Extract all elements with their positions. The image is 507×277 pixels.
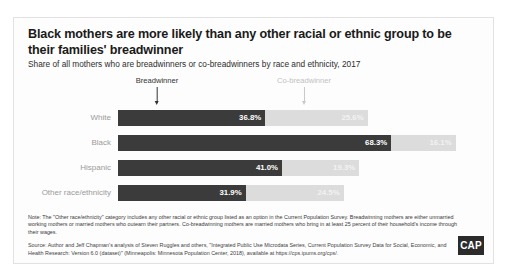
chart-title: Black mothers are more likely than any o… [28,27,468,58]
chart-plot-area: White36.8%25.6%Black68.3%16.1%Hispanic41… [14,110,494,210]
chart-row-bars: 68.3%16.1% [118,135,456,151]
bar-segment-cobreadwinner: 19.3% [282,160,359,176]
bar-value-label: 31.9% [219,185,241,201]
chart-row-label: Hispanic [14,160,111,176]
legend-cobreadwinner-arrow-icon [302,101,306,105]
bar-segment-cobreadwinner: 24.5% [246,185,344,201]
legend-breadwinner-label: Breadwinner [136,76,179,85]
chart-row: White36.8%25.6% [14,110,494,126]
chart-row-label: Black [14,135,111,151]
chart-row: Other race/ethnicity31.9%24.5% [14,185,494,201]
chart-row: Hispanic41.0%19.3% [14,160,494,176]
legend-cobreadwinner-label: Co-breadwinner [277,76,331,85]
legend-breadwinner-arrow-icon [154,101,158,105]
bar-value-label: 25.6% [341,110,363,126]
chart-row-bars: 31.9%24.5% [118,185,344,201]
chart-row-bars: 41.0%19.3% [118,160,359,176]
chart-row-label: White [14,110,111,126]
chart-row: Black68.3%16.1% [14,135,494,151]
bar-segment-breadwinner: 68.3% [118,135,391,151]
bar-value-label: 16.1% [429,135,451,151]
chart-subtitle: Share of all mothers who are breadwinner… [28,59,480,70]
legend-cobreadwinner: Co-breadwinner [277,76,331,85]
legend-breadwinner: Breadwinner [136,76,179,85]
chart-row-bars: 36.8%25.6% [118,110,368,126]
cap-logo: CAP [458,236,484,255]
bar-segment-breadwinner: 36.8% [118,110,265,126]
chart-row-label: Other race/ethnicity [14,185,111,201]
bar-value-label: 68.3% [365,135,387,151]
bar-segment-cobreadwinner: 16.1% [391,135,455,151]
chart-source: Source: Author and Jeff Chapman's analys… [28,242,458,257]
bar-value-label: 36.8% [239,110,261,126]
bar-segment-cobreadwinner: 25.6% [265,110,367,126]
chart-note: Note: The "Other race/ethnicity" categor… [28,214,458,236]
bar-value-label: 24.5% [317,185,339,201]
chart-figure: Black mothers are more likely than any o… [13,17,494,264]
bar-segment-breadwinner: 41.0% [118,160,282,176]
chart-footer: Note: The "Other race/ethnicity" categor… [28,214,458,257]
bar-segment-breadwinner: 31.9% [118,185,246,201]
bar-value-label: 41.0% [256,160,278,176]
bar-value-label: 19.3% [333,160,355,176]
